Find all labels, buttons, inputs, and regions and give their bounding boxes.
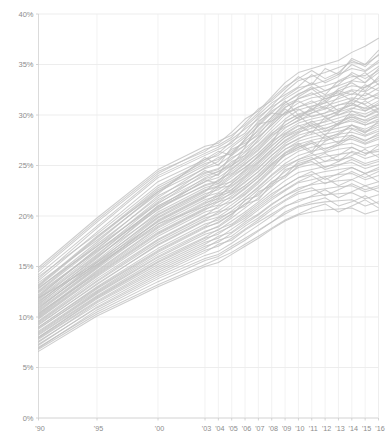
x-axis-tick-label: '07: [255, 424, 264, 433]
x-axis-tick-label: '95: [94, 424, 103, 433]
x-axis-tick-label: '11: [309, 424, 318, 433]
x-axis-tick-label: '05: [229, 424, 238, 433]
y-axis-tick-label: 40%: [18, 10, 33, 19]
x-axis-tick-label: '15: [362, 424, 371, 433]
x-axis-tick-label: '09: [282, 424, 291, 433]
chart-container: 40%35%30%25%20%15%10%5%0% '90'95'00'03'0…: [0, 0, 389, 446]
x-axis-tick-label: '16: [375, 424, 384, 433]
x-axis-tick-label: '13: [335, 424, 344, 433]
y-axis-tick-label: 0%: [23, 414, 34, 423]
x-axis-tick-label: '06: [242, 424, 251, 433]
y-axis-tick-label: 30%: [18, 111, 33, 120]
x-axis-tick-labels: '90'95'00'03'04'05'06'07'08'09'10'11'12'…: [35, 424, 384, 433]
x-axis-tick-label: '00: [155, 424, 164, 433]
y-axis-tick-label: 15%: [18, 262, 33, 271]
x-axis-tick-label: '90: [35, 424, 44, 433]
x-axis-tick-label: '10: [295, 424, 304, 433]
gridlines-horizontal: [39, 14, 379, 418]
x-axis-tick-label: '14: [349, 424, 358, 433]
y-axis-tick-label: 35%: [18, 60, 33, 69]
x-axis-tick-label: '12: [322, 424, 331, 433]
x-axis-tick-label: '08: [269, 424, 278, 433]
x-axis-tick-label: '03: [202, 424, 211, 433]
y-axis-tick-label: 5%: [23, 363, 34, 372]
y-axis-tick-label: 10%: [18, 313, 33, 322]
y-axis-tick-labels: 40%35%30%25%20%15%10%5%0%: [18, 10, 33, 423]
data-series-group: [39, 38, 379, 351]
data-series-line: [39, 137, 379, 318]
spaghetti-line-chart: 40%35%30%25%20%15%10%5%0% '90'95'00'03'0…: [0, 0, 389, 446]
y-axis-tick-label: 20%: [18, 212, 33, 221]
x-axis-tick-label: '04: [215, 424, 224, 433]
y-axis-tick-label: 25%: [18, 161, 33, 170]
